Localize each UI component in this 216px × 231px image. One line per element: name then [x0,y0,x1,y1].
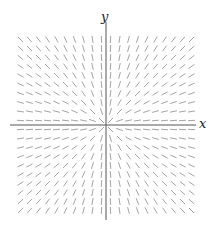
slope-segment [81,91,85,97]
slope-segment [82,63,85,70]
slope-segment [145,45,148,51]
slope-segment [18,190,23,194]
slope-segment [91,90,94,96]
slope-segment [171,190,176,195]
slope-segment [170,155,176,158]
slope-segment [54,190,58,196]
slope-segment [145,198,148,204]
slope-segment [83,207,85,214]
slope-segment [26,83,32,86]
slope-segment [144,73,148,78]
slope-segment [44,138,51,140]
slope-segment [44,101,51,104]
slope-segment [171,37,175,42]
slope-segment [118,162,120,169]
slope-segment [53,146,59,149]
slope-segment [119,54,120,61]
slope-segment [188,83,194,86]
slope-segment [64,189,68,195]
slope-segment [161,101,168,104]
slope-field-plot [0,0,216,231]
slope-segment [73,189,76,195]
slope-segment [170,92,176,95]
slope-segment [152,101,158,104]
slope-segment [64,207,67,213]
slope-segment [36,46,41,51]
slope-segment [82,180,85,187]
slope-segment [145,181,149,187]
slope-segment [134,137,140,140]
slope-segment [162,172,167,177]
slope-segment [36,190,41,195]
slope-segment [135,154,140,159]
slope-segment [118,81,120,88]
slope-segment [101,162,102,169]
slope-segment [82,171,85,177]
slope-segment [73,180,76,186]
slope-segment [119,36,120,43]
slope-segment [127,162,130,168]
slope-segment [55,46,59,52]
slope-segment [82,54,84,61]
slope-segment [152,138,159,140]
slope-segment [152,146,158,149]
slope-segment [125,129,132,130]
slope-segment [145,207,148,213]
slope-segment [125,110,131,114]
slope-segment [54,73,59,78]
slope-segment [127,54,129,61]
slope-segment [63,163,68,168]
slope-segment [17,111,24,112]
y-axis-label: y [101,9,108,24]
slope-segment [170,111,177,112]
slope-segment [54,172,59,177]
slope-segment [126,145,131,150]
slope-segment [144,172,148,177]
slope-segment [162,46,166,52]
slope-segment [73,172,77,178]
slope-segment [45,46,49,52]
slope-segment [188,138,195,139]
slope-segment [136,198,139,204]
slope-segment [82,162,85,168]
slope-segment [64,36,67,42]
slope-segment [108,127,113,132]
slope-segment [117,136,122,141]
slope-segment [63,154,69,158]
slope-segment [92,63,94,70]
slope-segment [188,102,195,104]
slope-segment [53,129,60,130]
slope-segment [72,145,78,149]
slope-segment [116,119,123,121]
slope-segment [127,72,130,78]
slope-segment [144,91,150,95]
slope-segment [27,181,33,185]
slope-segment [64,181,68,187]
slope-segment [71,137,77,140]
slope-segment [72,82,76,88]
slope-segment [171,181,176,186]
slope-segment [170,164,176,168]
slope-segment [153,155,159,159]
slope-segment [188,92,195,94]
slope-segment [188,155,195,157]
slope-segment [73,63,76,69]
slope-segment [189,37,194,42]
slope-segment [101,90,102,97]
slope-segment [80,129,87,130]
slope-segment [45,164,51,168]
slope-segment [126,91,130,97]
slope-segment [152,129,159,130]
slope-segment [179,147,186,149]
slope-segment [101,153,102,160]
slope-segment [152,111,159,113]
slope-segment [92,180,94,187]
slope-segment [17,102,24,104]
slope-segment [125,120,132,121]
slope-segment [189,55,194,59]
slope-segment [73,45,76,51]
slope-segment [89,119,96,121]
slope-segment [100,135,102,142]
slope-segment [55,207,59,213]
slope-segment [92,72,94,79]
